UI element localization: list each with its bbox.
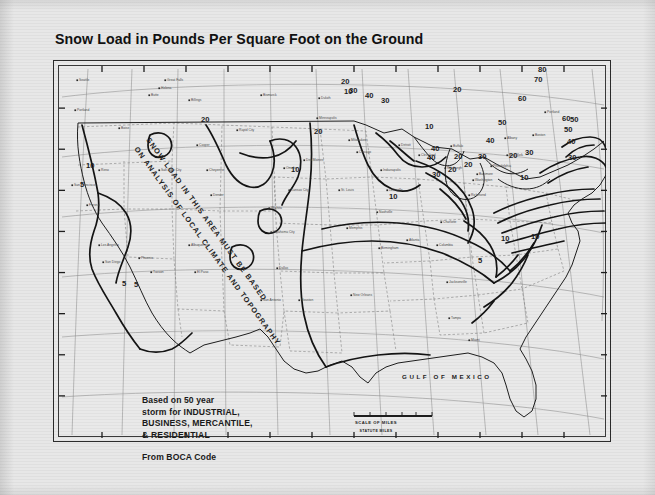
station-dot bbox=[472, 179, 474, 181]
station-dot bbox=[86, 204, 88, 206]
place-label: Detroit bbox=[401, 143, 411, 147]
place-label: Louisville bbox=[389, 188, 403, 192]
station-dot bbox=[164, 79, 166, 81]
place-label: Portland bbox=[547, 110, 559, 114]
station-dot bbox=[118, 127, 120, 129]
place-label: St. Louis bbox=[341, 188, 354, 192]
station-dot bbox=[98, 244, 100, 246]
place-label: Portland bbox=[77, 108, 89, 112]
contour-label: 30 bbox=[478, 152, 486, 161]
place-label: Charlotte bbox=[443, 220, 457, 224]
place-label: Columbia bbox=[439, 243, 453, 247]
place-label: San Diego bbox=[105, 260, 121, 264]
station-dot bbox=[138, 257, 140, 259]
contour-label: 20 bbox=[464, 160, 472, 169]
station-dot bbox=[260, 94, 262, 96]
place-label: San Francisco bbox=[74, 183, 95, 187]
place-label: Houston bbox=[301, 298, 313, 302]
place-label: Baltimore bbox=[479, 172, 493, 176]
place-label: Oklahoma City bbox=[273, 230, 295, 234]
contour-label: 40 bbox=[486, 136, 494, 145]
contour-label: 5 bbox=[478, 256, 483, 265]
station-dot bbox=[398, 144, 400, 146]
contour-label: 20 bbox=[314, 127, 322, 136]
map-frame: 1055520201010203040301010404030202060504… bbox=[53, 60, 611, 442]
place-label: Casper bbox=[199, 143, 211, 147]
station-dot bbox=[71, 184, 73, 186]
contour-label: 40 bbox=[365, 91, 373, 100]
place-label: Kansas City bbox=[291, 188, 309, 192]
contour-label: 10 bbox=[531, 232, 539, 241]
station-dot bbox=[150, 271, 152, 273]
place-label: Phoenix bbox=[141, 256, 153, 260]
contour-label: 50 bbox=[570, 115, 578, 124]
place-label: El Paso bbox=[197, 270, 209, 274]
station-dot bbox=[356, 151, 358, 153]
place-label: Cheyenne bbox=[209, 168, 224, 172]
station-dot bbox=[532, 134, 534, 136]
station-dot bbox=[283, 167, 285, 169]
station-dot bbox=[188, 244, 190, 246]
contour-label: 10 bbox=[389, 192, 397, 201]
snow-load-contour-map: 1055520201010203040301010404030202060504… bbox=[54, 61, 612, 443]
legend-line-1: Based on 50 year bbox=[142, 395, 253, 407]
legend-line-4: & RESIDENTIAL bbox=[142, 430, 253, 442]
overlay-caption-line-2: ON ANALYSIS OF LOCAL CLIMATE AND TOPOGRA… bbox=[132, 145, 282, 347]
place-label: Birmingham bbox=[381, 246, 399, 250]
station-dot bbox=[418, 154, 420, 156]
overlay-caption-line-1: SNOW LOAD IN THIS AREA MUST BE BASED bbox=[144, 136, 269, 303]
overlay-caption-group: SNOW LOAD IN THIS AREA MUST BE BASED ON … bbox=[132, 136, 282, 347]
station-dot bbox=[468, 339, 470, 341]
station-dot bbox=[196, 144, 198, 146]
place-label: Duluth bbox=[321, 96, 331, 100]
contour-label: 40 bbox=[567, 137, 575, 146]
contour-label: 20 bbox=[453, 85, 461, 94]
place-label: Cleveland bbox=[421, 153, 436, 157]
station-dot bbox=[148, 94, 150, 96]
place-label: Denver bbox=[213, 193, 225, 197]
place-label: Butte bbox=[151, 93, 159, 97]
station-dot bbox=[102, 261, 104, 263]
place-label: New York bbox=[509, 153, 523, 157]
place-label: Bismarck bbox=[263, 93, 277, 97]
place-label: Milwaukee bbox=[351, 138, 367, 142]
station-dot bbox=[288, 189, 290, 191]
contour-label: 80 bbox=[538, 65, 546, 74]
parallel-lines bbox=[62, 84, 604, 419]
station-dot bbox=[298, 299, 300, 301]
legend-line-3: BUSINESS, MERCANTILE, bbox=[142, 418, 253, 430]
map-legend: Based on 50 year storm for INDUSTRIAL, B… bbox=[142, 395, 253, 464]
station-dot bbox=[468, 194, 470, 196]
place-label: Seattle bbox=[79, 78, 89, 82]
legend-line-2: storm for INDUSTRIAL, bbox=[142, 407, 253, 419]
station-dot bbox=[268, 207, 270, 209]
place-label: Boston bbox=[535, 133, 545, 137]
contour-label: 50 bbox=[564, 125, 572, 134]
station-dot bbox=[504, 137, 506, 139]
contour-label: 10 bbox=[520, 173, 528, 182]
legend-source: From BOCA Code bbox=[142, 452, 253, 464]
place-label: Albany bbox=[507, 136, 517, 140]
station-dot bbox=[380, 169, 382, 171]
station-dot bbox=[98, 169, 100, 171]
page-title: Snow Load in Pounds Per Square Foot on t… bbox=[55, 31, 423, 47]
contour-label: 60 bbox=[518, 94, 526, 103]
contour-label: 10 bbox=[425, 122, 433, 131]
station-dot bbox=[276, 267, 278, 269]
station-dot bbox=[348, 139, 350, 141]
place-label: Pittsburgh bbox=[447, 166, 462, 170]
contour-label: 10 bbox=[501, 234, 509, 243]
station-dot bbox=[158, 87, 160, 89]
station-dot bbox=[188, 99, 190, 101]
station-dot bbox=[476, 173, 478, 175]
station-dot bbox=[436, 244, 438, 246]
place-label: Atlanta bbox=[409, 238, 419, 242]
contour-label: 50 bbox=[498, 118, 506, 127]
station-dot bbox=[406, 239, 408, 241]
station-dot bbox=[544, 111, 546, 113]
station-dot bbox=[446, 281, 448, 283]
station-dot bbox=[346, 227, 348, 229]
contour-label: 10 bbox=[86, 161, 94, 170]
station-dot bbox=[448, 317, 450, 319]
place-label: Boise bbox=[121, 126, 129, 130]
